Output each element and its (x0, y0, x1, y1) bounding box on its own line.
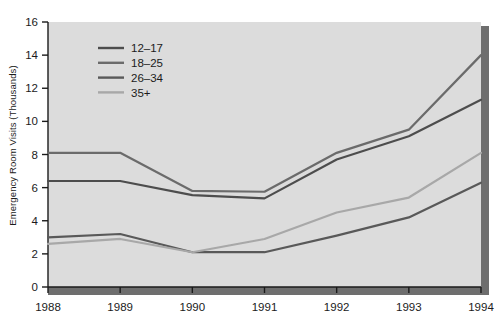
x-tick-label: 1994 (468, 301, 494, 313)
legend-label-35-: 35+ (131, 87, 151, 99)
y-axis-ticks: 0246810121416 (25, 16, 48, 293)
plot-shadow-right (481, 26, 489, 294)
x-tick-label: 1988 (35, 301, 61, 313)
y-axis-title-label: Emergency Room Visits (Thousands) (7, 65, 18, 225)
y-tick-label: 14 (25, 49, 38, 61)
legend-label-18-25: 18–25 (131, 57, 163, 69)
y-tick-label: 4 (32, 215, 39, 227)
y-tick-label: 12 (25, 82, 38, 94)
chart-container: Emergency Room Visits (Thousands) 024681… (0, 0, 501, 320)
x-tick-label: 1989 (107, 301, 133, 313)
y-tick-label: 6 (32, 182, 38, 194)
y-axis-title: Emergency Room Visits (Thousands) (0, 0, 24, 290)
x-tick-label: 1990 (180, 301, 206, 313)
y-tick-label: 8 (32, 149, 38, 161)
y-tick-label: 0 (32, 281, 38, 293)
line-chart: 0246810121416 19881989199019911992199319… (0, 0, 501, 320)
y-tick-label: 16 (25, 16, 38, 28)
plot-shadow-bottom (48, 287, 489, 295)
legend-label-26-34: 26–34 (131, 72, 164, 84)
y-tick-label: 10 (25, 115, 38, 127)
x-tick-label: 1991 (252, 301, 278, 313)
x-tick-label: 1993 (396, 301, 422, 313)
y-tick-label: 2 (32, 248, 38, 260)
x-tick-label: 1992 (324, 301, 350, 313)
legend-label-12-17: 12–17 (131, 42, 163, 54)
